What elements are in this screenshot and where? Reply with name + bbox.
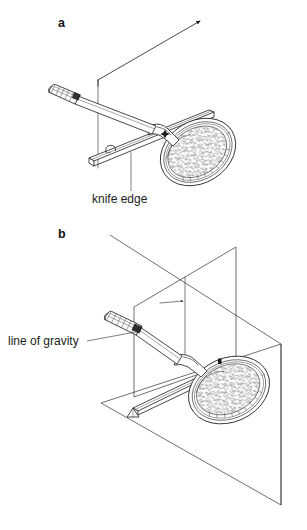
- panel-b-racket: [104, 311, 280, 436]
- panel-b-line-of-gravity-leader: [87, 331, 141, 341]
- panel-a-racket-shaft: [75, 96, 156, 134]
- figure-illustration: a: [0, 0, 307, 530]
- line-of-gravity-label: line of gravity: [8, 334, 79, 348]
- figure-root: a: [0, 0, 307, 530]
- panel-b-racket-grip: [104, 311, 142, 335]
- panel-a: a: [49, 16, 249, 206]
- panel-b-gravity-arrow: [160, 301, 183, 303]
- panel-b-head-contact-tab: [218, 359, 222, 365]
- panel-a-racket: [49, 84, 249, 199]
- panel-a-incline-arrow: [98, 21, 200, 86]
- panel-b: b: [8, 227, 281, 505]
- panel-a-letter: a: [58, 16, 66, 30]
- panel-b-letter: b: [58, 227, 66, 241]
- knife-edge-label: knife edge: [92, 192, 148, 206]
- panel-a-racket-grip: [49, 84, 81, 104]
